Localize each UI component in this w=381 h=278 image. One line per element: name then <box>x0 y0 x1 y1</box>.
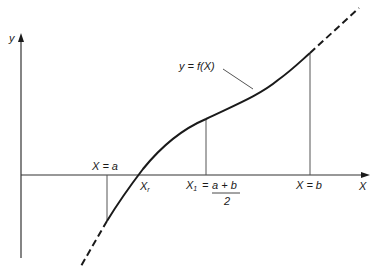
y-axis <box>18 33 24 258</box>
curve-label-leader <box>223 69 253 89</box>
x-axis-arrow-icon <box>361 172 370 178</box>
label-x-equals-a: X = a <box>91 160 118 172</box>
function-curve-solid <box>107 53 310 221</box>
y-axis-label: y <box>8 32 16 44</box>
function-curve-dashed-lower <box>81 221 107 266</box>
x-axis <box>21 172 370 178</box>
label-x1-denominator: 2 <box>223 195 230 207</box>
label-x-root: Xr <box>139 180 150 193</box>
function-curve-dashed-upper <box>310 8 359 53</box>
x-axis-label: X <box>358 180 367 192</box>
curve-label: y = f(X) <box>178 60 215 72</box>
y-axis-arrow-icon <box>18 33 24 42</box>
bisection-diagram: y X y = f(X) X = a Xr X1 = a + b 2 X = b <box>0 0 381 278</box>
label-x1-equals: = <box>202 179 209 191</box>
label-x-equals-b: X = b <box>295 179 322 191</box>
label-x1-numerator: a + b <box>212 179 237 191</box>
label-x1-main: X1 <box>185 179 197 192</box>
